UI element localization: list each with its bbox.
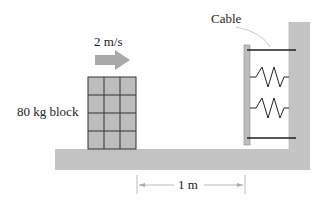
floor: [55, 149, 310, 170]
wall: [289, 22, 310, 170]
spring-bottom: [250, 98, 289, 118]
spring-top: [250, 67, 289, 87]
cable-leader: [236, 27, 270, 47]
distance-label: 1 m: [178, 177, 198, 193]
block: [88, 77, 136, 149]
diagram-canvas: [0, 0, 325, 204]
block-label: 80 kg block: [17, 104, 78, 120]
velocity-label: 2 m/s: [94, 34, 123, 50]
cable-label: Cable: [211, 11, 241, 27]
velocity-arrow-icon: [95, 50, 130, 70]
plate: [244, 45, 250, 145]
